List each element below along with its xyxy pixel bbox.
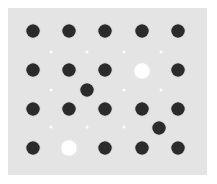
vacancy-marker (135, 64, 150, 79)
lattice-atom (99, 142, 112, 155)
lattice-atom (63, 25, 76, 38)
interstitial-site-dot (86, 51, 89, 54)
lattice-atom (99, 103, 112, 116)
lattice-atom (136, 103, 149, 116)
lattice-atom (63, 64, 76, 77)
lattice-atom (99, 25, 112, 38)
interstitial-site-dot (50, 51, 53, 54)
vacancy-marker (62, 141, 77, 156)
lattice-atom (63, 103, 76, 116)
lattice-atom (136, 142, 149, 155)
interstitial-site-dot (50, 126, 53, 129)
interstitial-site-dot (160, 89, 163, 92)
interstitial-site-dot (160, 51, 163, 54)
interstitial-site-dot (123, 89, 126, 92)
interstitial-site-dot (123, 51, 126, 54)
lattice-atom (27, 142, 40, 155)
lattice-atom (172, 142, 185, 155)
lattice-atom (172, 64, 185, 77)
interstitial-atom (153, 122, 166, 135)
lattice-atom (172, 25, 185, 38)
lattice-atom (99, 64, 112, 77)
lattice-atom (27, 64, 40, 77)
interstitial-site-dot (123, 126, 126, 129)
lattice-atom (27, 103, 40, 116)
interstitial-site-dot (50, 89, 53, 92)
lattice-atom (27, 25, 40, 38)
interstitial-atom (81, 84, 94, 97)
lattice-atom (172, 103, 185, 116)
interstitial-site-dot (86, 126, 89, 129)
lattice-atom (136, 25, 149, 38)
diagram-canvas (0, 0, 217, 184)
